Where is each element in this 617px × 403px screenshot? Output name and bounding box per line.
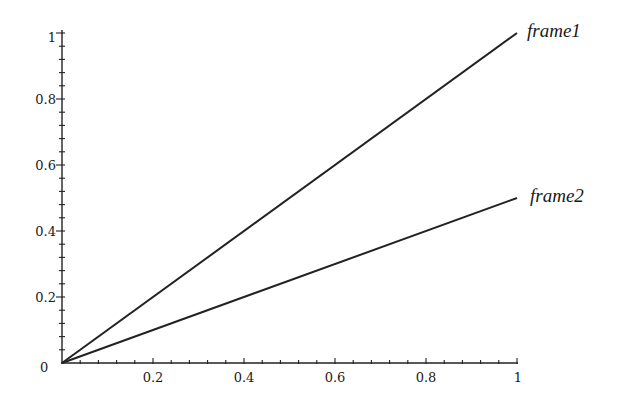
y-tick-label: 0.6 bbox=[35, 158, 56, 173]
origin-label: 0 bbox=[40, 360, 48, 375]
y-ticks bbox=[56, 33, 65, 350]
line-chart: 0 0.2 0.4 0.6 0.8 1 0.2 0.4 0.6 0.8 1 fr… bbox=[0, 0, 617, 403]
x-tick-label: 0.4 bbox=[234, 370, 255, 385]
x-tick-label: 0.2 bbox=[143, 370, 164, 385]
x-tick-label: 0.6 bbox=[325, 370, 346, 385]
y-tick-label: 0.4 bbox=[35, 224, 56, 239]
x-tick-labels: 0.2 0.4 0.6 0.8 1 bbox=[143, 370, 522, 385]
x-tick-label: 0.8 bbox=[416, 370, 437, 385]
series-frame1-label: frame1 bbox=[527, 20, 581, 41]
y-tick-label: 0.2 bbox=[35, 290, 56, 305]
y-tick-labels: 0.2 0.4 0.6 0.8 1 bbox=[35, 30, 56, 305]
series-frame2-label: frame2 bbox=[530, 185, 584, 206]
axes bbox=[56, 30, 518, 364]
x-tick-label: 1 bbox=[514, 370, 522, 385]
y-tick-label: 0.8 bbox=[35, 92, 56, 107]
series-frame1-line bbox=[62, 33, 517, 363]
series-frame2-line bbox=[62, 198, 517, 363]
y-tick-label: 1 bbox=[48, 30, 56, 45]
